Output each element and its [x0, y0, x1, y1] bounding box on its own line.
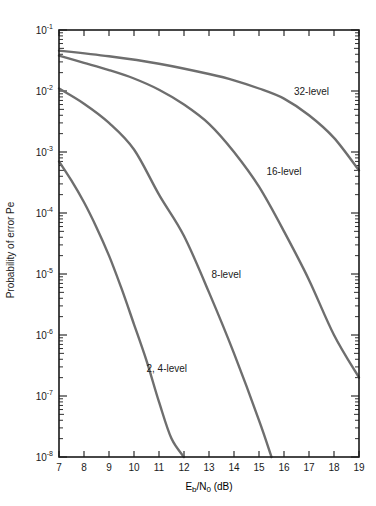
- x-tick-label: 12: [178, 462, 190, 473]
- x-tick-label: 10: [128, 462, 140, 473]
- x-tick-label: 9: [106, 462, 112, 473]
- y-axis-label-text: Probability of error Pe: [5, 202, 16, 299]
- y-tick-label: 10-6: [36, 328, 53, 341]
- y-tick-label: 10-8: [36, 450, 53, 463]
- x-tick-label: 16: [278, 462, 290, 473]
- y-tick-label: 10-3: [36, 145, 53, 158]
- x-tick-label: 14: [228, 462, 240, 473]
- y-tick-label: 10-2: [36, 84, 53, 97]
- x-tick-label: 7: [56, 462, 62, 473]
- error-probability-chart: 78910111213141516171819 10-110-210-310-4…: [0, 0, 376, 506]
- series-label: 16-level: [267, 166, 302, 177]
- y-tick-label: 10-4: [36, 206, 53, 219]
- y-axis-label: Probability of error Pe: [2, 240, 18, 260]
- x-axis-label: Eb/N0 (dB): [185, 481, 232, 494]
- x-tick-labels: 78910111213141516171819: [56, 462, 365, 473]
- y-tick-labels: 10-110-210-310-410-510-610-710-8: [36, 23, 53, 463]
- x-tick-label: 19: [353, 462, 365, 473]
- series-label: 32-level: [294, 86, 329, 97]
- x-tick-label: 17: [303, 462, 315, 473]
- y-tick-label: 10-1: [36, 23, 53, 36]
- x-tick-label: 13: [203, 462, 215, 473]
- x-tick-label: 11: [154, 462, 165, 473]
- y-tick-label: 10-7: [36, 389, 53, 402]
- x-tick-label: 15: [253, 462, 265, 473]
- curves: [59, 51, 359, 457]
- series-labels: 32-level16-level8-level2, 4-level: [147, 86, 330, 373]
- y-tick-label: 10-5: [36, 267, 53, 280]
- x-tick-label: 18: [328, 462, 340, 473]
- series-label: 2, 4-level: [147, 363, 188, 374]
- curve-16-level: [59, 56, 359, 378]
- series-label: 8-level: [212, 269, 241, 280]
- x-tick-label: 8: [81, 462, 87, 473]
